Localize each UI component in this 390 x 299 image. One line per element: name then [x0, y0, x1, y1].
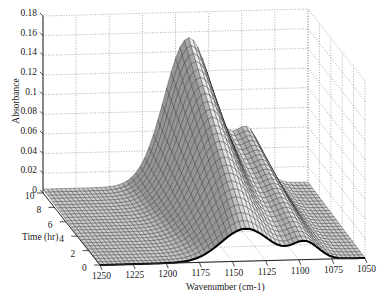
time-tick-label: 0	[82, 263, 87, 273]
z-tick-label: 0.14	[3, 47, 37, 57]
time-tick-label: 8	[36, 205, 41, 215]
time-tick-label: 6	[48, 220, 53, 230]
time-tick-label: 2	[71, 249, 76, 259]
wavenumber-tick-label: 1150	[225, 268, 244, 278]
z-tick-label: 0.18	[3, 8, 37, 18]
z-tick-label: 0.16	[3, 28, 37, 38]
time-tick-label: 4	[59, 234, 64, 244]
wavenumber-tick-label: 1100	[291, 266, 310, 276]
z-axis-label: Absorbance	[11, 78, 21, 123]
wavenumber-axis-label: Wavenumber (cm-1)	[186, 282, 265, 292]
wavenumber-tick-label: 1250	[92, 271, 111, 281]
z-tick-label: 0.12	[3, 67, 37, 77]
mesh-surface	[43, 38, 365, 265]
z-tick-label: 0.06	[3, 126, 37, 136]
wavenumber-tick-label: 1125	[258, 267, 277, 277]
z-tick-label: 0.04	[3, 146, 37, 156]
time-tick-label: 10	[25, 191, 35, 201]
wavenumber-tick-label: 1075	[324, 265, 343, 275]
wavenumber-tick-label: 1050	[357, 264, 376, 274]
wavenumber-tick-label: 1225	[125, 270, 144, 280]
time-axis-label: Time (hr)	[22, 232, 58, 242]
surface-plot	[0, 0, 390, 299]
wavenumber-tick-label: 1200	[158, 269, 177, 279]
z-tick-label: 0.02	[3, 165, 37, 175]
wavenumber-tick-label: 1175	[191, 268, 210, 278]
